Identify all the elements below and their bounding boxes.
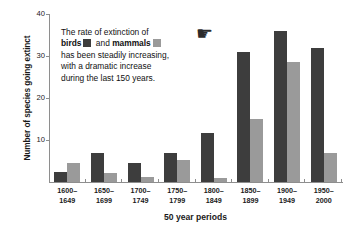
x-label-line2: 1749 (133, 196, 149, 205)
y-tick-30: 30 (15, 52, 45, 60)
x-label-line1: 1750– (167, 186, 187, 195)
x-axis-tick-label: 1650–1699 (86, 186, 123, 205)
x-axis-tick-label: 1800–1849 (196, 186, 233, 205)
bar-mammals (104, 173, 117, 182)
bar-birds (164, 153, 177, 182)
y-tick-40: 40 (15, 10, 45, 18)
x-label-line1: 1650– (94, 186, 114, 195)
x-label-line2: 2000 (316, 196, 332, 205)
x-axis-tick-labels: 1600–16491650–16991700–17491750–17991800… (49, 186, 342, 205)
bar-mammals (214, 178, 227, 182)
annotation-line3: has been steadily increasing, (61, 50, 169, 60)
annotation-line4: with a dramatic increase (61, 61, 151, 71)
bar-birds (274, 31, 287, 182)
legend-swatch-mammals (153, 39, 161, 47)
x-label-line2: 1849 (206, 196, 222, 205)
x-axis-tick-mark (341, 179, 342, 183)
legend-swatch-birds (83, 39, 91, 47)
annotation-mammals-label: mammals (112, 38, 151, 48)
x-axis-tick-label: 1700–1749 (122, 186, 159, 205)
y-tick-10-label: 10 (37, 135, 45, 144)
x-label-line1: 1950– (314, 186, 334, 195)
x-axis-tick-label: 1900–1949 (269, 186, 306, 205)
bar-mammals (287, 62, 300, 182)
chart-annotation: The rate of extinction of birds and mamm… (61, 27, 201, 84)
y-tick-40-label: 40 (37, 9, 45, 18)
bar-birds (201, 133, 214, 182)
x-axis-line (49, 182, 343, 183)
y-tick-30-label: 30 (37, 51, 45, 60)
y-tick-20-label: 20 (37, 93, 45, 102)
annotation-birds-label: birds (61, 38, 81, 48)
x-label-line1: 1900– (277, 186, 297, 195)
bar-birds (311, 48, 324, 182)
x-axis-tick-label: 1750–1799 (159, 186, 196, 205)
bar-group (269, 14, 306, 182)
bar-mammals (141, 177, 154, 182)
extinction-bar-chart: Number of species going extinct 40 30 20… (0, 0, 351, 245)
bar-mammals (67, 163, 80, 182)
x-axis-tick-label: 1850–1899 (232, 186, 269, 205)
bar-birds (54, 172, 67, 183)
bar-mammals (324, 153, 337, 182)
x-axis-tick-label: 1950–2000 (305, 186, 342, 205)
x-label-line2: 1949 (279, 196, 295, 205)
pointing-hand-icon: ☛ (196, 24, 213, 43)
bar-group (232, 14, 269, 182)
bar-mammals (177, 160, 190, 182)
bar-mammals (250, 119, 263, 182)
x-label-line2: 1799 (169, 196, 185, 205)
x-label-line1: 1700– (131, 186, 151, 195)
y-tick-20: 20 (15, 94, 45, 102)
bar-birds (128, 163, 141, 182)
x-label-line1: 1600– (57, 186, 77, 195)
annotation-line5: during the last 150 years. (61, 73, 155, 83)
bar-birds (237, 52, 250, 182)
bar-birds (91, 153, 104, 182)
x-label-line2: 1649 (59, 196, 75, 205)
bar-group (305, 14, 342, 182)
x-axis-title: 50 year periods (49, 212, 342, 222)
x-label-line1: 1850– (240, 186, 260, 195)
x-axis-tick-label: 1600–1649 (49, 186, 86, 205)
annotation-line1: The rate of extinction of (61, 27, 149, 37)
x-label-line2: 1699 (96, 196, 112, 205)
y-tick-10: 10 (15, 136, 45, 144)
annotation-and-label: and (96, 38, 110, 48)
x-label-line1: 1800– (204, 186, 224, 195)
x-label-line2: 1899 (242, 196, 258, 205)
